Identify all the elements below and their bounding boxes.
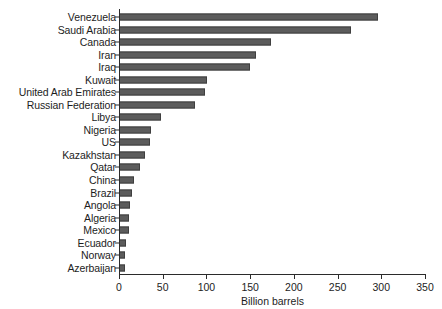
- x-axis-tick-label: 200: [285, 281, 303, 293]
- category-label: Saudi Arabia: [58, 24, 116, 35]
- category-label: Kazakhstan: [62, 149, 116, 160]
- bar-row: Angola: [0, 199, 442, 212]
- bar: [119, 39, 271, 46]
- bar: [119, 114, 161, 121]
- bar: [119, 14, 378, 21]
- x-axis-tick-label: 0: [116, 281, 122, 293]
- x-axis-tick: [381, 275, 382, 279]
- bar-row: United Arab Emirates: [0, 86, 442, 99]
- bar: [119, 189, 132, 196]
- plot-area: VenezuelaSaudi ArabiaCanadaIranIraqKuwai…: [0, 0, 442, 309]
- bar: [119, 64, 250, 71]
- x-axis-tick-label: 300: [373, 281, 391, 293]
- bar-row: Russian Federation: [0, 99, 442, 112]
- x-axis-tick-label: 150: [241, 281, 259, 293]
- category-label: US: [102, 137, 116, 148]
- x-axis-line: [119, 274, 426, 275]
- category-label: United Arab Emirates: [19, 87, 116, 98]
- bar-row: Kuwait: [0, 74, 442, 87]
- x-axis-tick-label: 350: [416, 281, 434, 293]
- x-axis-tick: [294, 275, 295, 279]
- bar: [119, 51, 256, 58]
- bar-row: Venezuela: [0, 11, 442, 24]
- x-axis-title: Billion barrels: [119, 295, 426, 307]
- bar: [119, 101, 195, 108]
- bar-row: Libya: [0, 111, 442, 124]
- bar-row: Saudi Arabia: [0, 24, 442, 37]
- category-label: Angola: [84, 200, 116, 211]
- x-axis-tick-label: 250: [329, 281, 347, 293]
- bar-row: Iraq: [0, 61, 442, 74]
- bar: [119, 202, 130, 209]
- category-label: Venezuela: [68, 12, 116, 23]
- x-axis-tick: [119, 275, 120, 279]
- bar: [119, 126, 151, 133]
- bar-row: Qatar: [0, 161, 442, 174]
- category-label: Ecuador: [78, 237, 116, 248]
- x-axis-tick: [163, 275, 164, 279]
- category-label: China: [89, 175, 116, 186]
- category-label: Norway: [81, 250, 116, 261]
- x-axis-tick-label: 100: [198, 281, 216, 293]
- bar: [119, 227, 129, 234]
- x-axis-tick: [425, 275, 426, 279]
- category-label: Libya: [91, 112, 116, 123]
- category-label: Brazil: [90, 187, 116, 198]
- bar-row: Kazakhstan: [0, 149, 442, 162]
- bar: [119, 76, 207, 83]
- bar-row: Ecuador: [0, 236, 442, 249]
- bar-row: Norway: [0, 249, 442, 262]
- category-label: Mexico: [83, 225, 116, 236]
- x-axis-tick: [206, 275, 207, 279]
- category-label: Qatar: [90, 162, 116, 173]
- category-label: Canada: [80, 37, 116, 48]
- bar-row: Mexico: [0, 224, 442, 237]
- bar-row: Canada: [0, 36, 442, 49]
- bar: [119, 26, 351, 33]
- bar: [119, 177, 134, 184]
- bar: [119, 164, 140, 171]
- bar: [119, 89, 205, 96]
- bar-row: Iran: [0, 49, 442, 62]
- category-label: Kuwait: [85, 74, 116, 85]
- bar: [119, 139, 150, 146]
- bar: [119, 151, 145, 158]
- x-axis-tick: [338, 275, 339, 279]
- category-label: Azerbaijan: [67, 262, 116, 273]
- bar-row: Algeria: [0, 211, 442, 224]
- category-label: Algeria: [84, 212, 116, 223]
- bar-row: China: [0, 174, 442, 187]
- category-label: Russian Federation: [27, 99, 116, 110]
- bar: [119, 239, 126, 246]
- x-axis-tick: [250, 275, 251, 279]
- category-label: Iran: [98, 49, 116, 60]
- bar-row: Azerbaijan: [0, 261, 442, 274]
- x-axis-tick-label: 50: [157, 281, 169, 293]
- bar-chart: VenezuelaSaudi ArabiaCanadaIranIraqKuwai…: [0, 0, 442, 309]
- y-axis-line: [119, 9, 120, 275]
- category-label: Nigeria: [83, 124, 116, 135]
- bar: [119, 214, 129, 221]
- bar-row: US: [0, 136, 442, 149]
- category-label: Iraq: [98, 62, 116, 73]
- bar-row: Nigeria: [0, 124, 442, 137]
- bar-row: Brazil: [0, 186, 442, 199]
